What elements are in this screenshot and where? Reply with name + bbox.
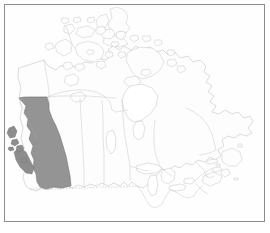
small-arctic-island-b bbox=[73, 17, 81, 23]
magdalen-islands bbox=[216, 164, 220, 166]
prince-patrick-island bbox=[64, 24, 75, 34]
small-arctic-island-c bbox=[61, 18, 69, 24]
lake-ontario bbox=[184, 178, 195, 184]
melville-island bbox=[76, 26, 95, 38]
anticosti-island bbox=[206, 159, 218, 164]
lake-michigan bbox=[148, 175, 158, 196]
coastal-island-c[interactable] bbox=[8, 147, 14, 151]
cape-breton-island bbox=[221, 169, 230, 177]
nova-scotia-peninsula bbox=[202, 172, 222, 186]
coastal-island-a[interactable] bbox=[11, 139, 19, 146]
lake-erie bbox=[169, 184, 186, 191]
canada-map bbox=[0, 0, 270, 233]
haida-gwaii[interactable] bbox=[7, 126, 17, 138]
prince-edward-island bbox=[212, 167, 222, 172]
map-figure bbox=[0, 0, 270, 233]
maine-coast bbox=[196, 184, 208, 194]
border-quebec-newbrunswick bbox=[196, 162, 206, 176]
small-arctic-island-g bbox=[142, 36, 151, 42]
small-arctic-island-a bbox=[87, 17, 95, 23]
belle-isle bbox=[238, 144, 242, 147]
sable-island bbox=[234, 178, 238, 180]
small-arctic-island-m bbox=[45, 43, 54, 50]
newfoundland-island bbox=[222, 148, 242, 166]
small-arctic-island-h bbox=[154, 40, 162, 46]
lake-huron bbox=[161, 168, 175, 184]
banks-island bbox=[55, 39, 72, 56]
small-arctic-island-f bbox=[130, 35, 139, 42]
